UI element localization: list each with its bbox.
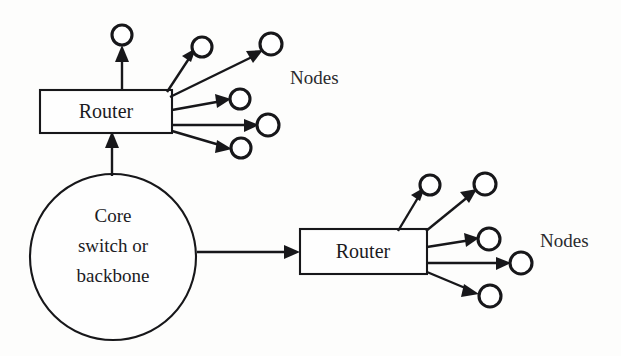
link-router-bottom-node-3 — [427, 233, 479, 247]
node-circle — [510, 252, 532, 274]
nodes-label-top: Nodes — [290, 67, 339, 88]
link-router-top-node-6 — [172, 131, 232, 153]
link-router-top-node-5 — [172, 119, 259, 132]
router-bottom-label: Router — [336, 240, 391, 262]
nodes-label-bottom: Nodes — [540, 230, 589, 251]
link-router-top-node-1 — [115, 45, 129, 90]
diagram-canvas: Core switch or backbone Router — [0, 0, 621, 356]
link-core-to-router-bottom — [197, 245, 300, 259]
core-switch-circle — [30, 174, 196, 340]
link-router-top-node-4-arrowhead — [215, 94, 231, 108]
router-top: Router — [40, 90, 172, 133]
network-topology-diagram: Core switch or backbone Router — [0, 0, 621, 356]
link-router-top-node-6-arrowhead — [215, 140, 232, 153]
node-circle — [478, 228, 500, 250]
link-router-top-node-4-line — [172, 101, 222, 110]
core-switch-node: Core switch or backbone — [30, 174, 196, 340]
node-circle — [474, 173, 496, 195]
core-switch-label-line1: Core — [95, 205, 132, 226]
node-circle — [112, 25, 132, 45]
link-router-bottom-node-5 — [427, 272, 479, 297]
node-circle — [260, 33, 282, 55]
node-circle — [231, 138, 251, 158]
link-router-top-node-3-arrowhead — [246, 50, 263, 63]
link-router-bottom-node-5-arrowhead — [461, 284, 479, 297]
link-router-bottom-node-1 — [398, 187, 425, 231]
link-router-top-node-6-line — [172, 131, 223, 146]
router-top-label: Router — [79, 100, 134, 122]
link-router-bottom-node-3-line — [427, 240, 471, 247]
core-switch-label-line3: backbone — [77, 265, 150, 286]
node-circle — [192, 37, 212, 57]
node-circle — [257, 114, 279, 136]
link-router-bottom-node-2-line — [426, 196, 469, 231]
core-switch-label-line2: switch or — [78, 235, 149, 256]
node-circle — [230, 89, 250, 109]
link-core-router-bottom-arrowhead — [284, 245, 300, 259]
node-circle — [420, 175, 440, 195]
link-router-bottom-node-1-line — [398, 196, 419, 231]
link-router-bottom-node-4 — [427, 257, 511, 270]
link-router-top-node-2-line — [167, 57, 190, 92]
link-core-to-router-top — [105, 131, 119, 176]
link-router-top-node-4 — [172, 94, 231, 110]
router-bottom: Router — [300, 229, 427, 274]
node-circle — [479, 285, 501, 307]
link-router-top-node-1-arrowhead — [115, 45, 129, 62]
